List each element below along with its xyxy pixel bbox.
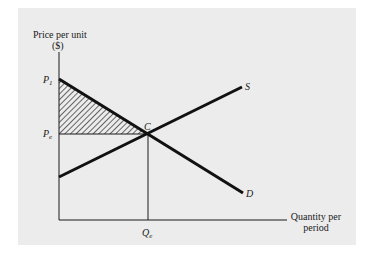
equilibrium-label-c: C — [144, 121, 151, 132]
demand-curve — [59, 79, 243, 193]
tick-label-qe: Qe — [142, 227, 152, 242]
y-axis-title: Price per unit — [33, 29, 87, 40]
tick-label-p1: P1 — [43, 74, 53, 89]
demand-label: D — [246, 188, 253, 199]
y-axis-unit: ($) — [52, 40, 64, 51]
tick-label-pe: Pe — [43, 128, 52, 143]
supply-label: S — [245, 81, 250, 92]
x-axis-title: Quantity per period — [289, 211, 343, 233]
